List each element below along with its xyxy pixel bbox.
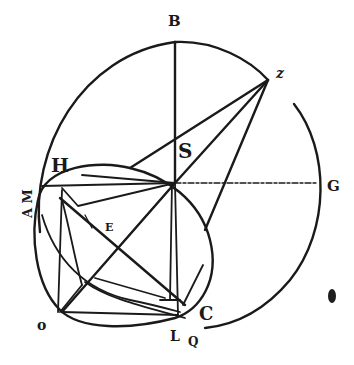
label-e: E [105, 221, 113, 234]
geometric-diagram: B z S H A M G E o L Q C [0, 0, 354, 365]
label-l: L [170, 328, 180, 344]
label-am: A M [20, 189, 35, 219]
line-o-inner [60, 285, 82, 312]
label-s: S [178, 139, 192, 163]
line-am-s [42, 183, 175, 186]
label-c: C [199, 303, 213, 324]
label-q: Q [188, 335, 198, 349]
line-inner-mid [95, 278, 165, 298]
line-o-l [62, 312, 178, 315]
line-s-e-crossing [110, 183, 175, 257]
label-o: o [37, 317, 46, 333]
label-h: H [51, 154, 69, 176]
line-s-l-2 [170, 183, 172, 300]
line-z-c [205, 80, 268, 230]
line-s-l [175, 183, 178, 315]
label-g: G [327, 177, 340, 195]
large-circle-arc-right [205, 104, 321, 328]
label-b: B [168, 12, 181, 30]
ink-blot [328, 289, 336, 303]
large-circle-arc-upper [39, 42, 268, 232]
small-circle [34, 165, 212, 326]
label-z: z [275, 65, 285, 81]
